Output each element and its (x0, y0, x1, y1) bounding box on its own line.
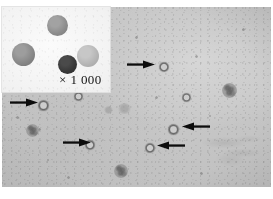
ring-cell (182, 93, 191, 102)
speck (242, 28, 245, 31)
pointer-arrow-right (127, 60, 155, 69)
pointer-arrow-right (10, 98, 38, 107)
ring-cell (159, 62, 169, 72)
fibre-artifact (198, 129, 268, 175)
ring-cell (74, 92, 83, 101)
magnification-label: × 1 000 (59, 73, 102, 86)
blur-blob (118, 103, 131, 114)
speck (135, 36, 138, 39)
ring-cell (145, 143, 155, 153)
speck (67, 176, 70, 179)
speck (209, 115, 211, 117)
speck (155, 96, 158, 99)
pointer-arrow-right (63, 138, 91, 147)
inset-cell-top (47, 15, 68, 36)
speck (47, 159, 49, 161)
granular-cell (114, 164, 128, 178)
speck (195, 55, 198, 58)
inset-cell-right (77, 45, 99, 67)
pointer-arrow-left (157, 141, 185, 150)
photomicrograph-figure: × 1 000 (0, 0, 273, 199)
inset-cell-left (12, 43, 35, 66)
pointer-arrow-left (182, 122, 210, 131)
ring-cell (168, 124, 179, 135)
granular-cell (26, 124, 39, 137)
granular-cell (222, 83, 237, 98)
magnification-inset: × 1 000 (2, 7, 110, 92)
blur-blob (104, 106, 113, 114)
ring-cell (38, 100, 49, 111)
speck (16, 116, 19, 119)
